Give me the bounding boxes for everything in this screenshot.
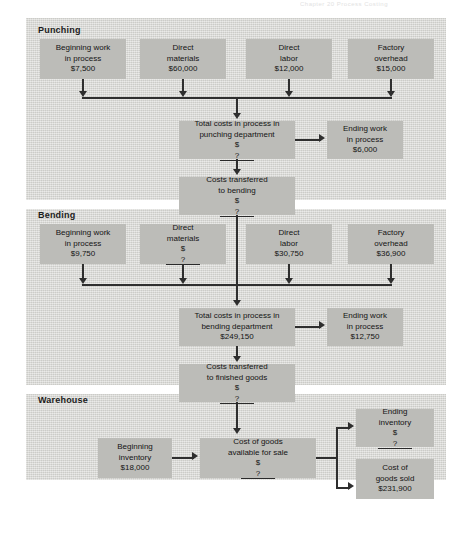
blank-value: ? xyxy=(166,255,200,265)
blank-value: ? xyxy=(220,151,254,161)
section-label-bending: Bending xyxy=(38,210,75,220)
box-amount: $60,000 xyxy=(169,64,198,75)
warehouse-cost-of-goods-sold-box[interactable]: Cost of goods sold $231,900 xyxy=(356,459,434,499)
box-line-2: punching department xyxy=(199,130,274,141)
bending-ending-wip-line xyxy=(295,326,321,328)
box-line-1: Total costs in process in xyxy=(195,119,280,130)
punching-direct-labor-box[interactable]: Direct labor $12,000 xyxy=(246,39,332,79)
punching-transfer-feed-arrow-icon xyxy=(233,169,241,175)
punching-factory-overhead-box[interactable]: Factory overhead $15,000 xyxy=(348,39,434,79)
currency-symbol: $ xyxy=(378,428,412,439)
box-line-1: Direct xyxy=(173,43,194,54)
box-line-1: Factory xyxy=(378,228,405,239)
bending-factory-overhead-box[interactable]: Factory overhead $36,900 xyxy=(348,224,434,264)
box-amount: $? xyxy=(166,244,200,265)
box-line-2: inventory xyxy=(379,418,411,429)
warehouse-beginning-to-available-line xyxy=(172,457,194,459)
currency-symbol: $ xyxy=(166,244,200,255)
bending-direct-labor-box[interactable]: Direct labor $30,750 xyxy=(246,224,332,264)
running-head: Chapter 20 Process Costing xyxy=(300,1,460,8)
box-amount: $249,150 xyxy=(220,332,253,343)
bending-total-costs-box[interactable]: Total costs in process in bending depart… xyxy=(179,308,295,346)
punching-costs-transferred-box[interactable]: Costs transferred to bending $? xyxy=(179,177,295,215)
box-line-1: Direct xyxy=(279,228,300,239)
blank-value: ? xyxy=(220,207,254,217)
punching-direct-materials-box[interactable]: Direct materials $60,000 xyxy=(140,39,226,79)
box-line-2: labor xyxy=(280,239,298,250)
bending-total-feed-arrow-icon xyxy=(233,300,241,306)
box-amount: $? xyxy=(378,428,412,449)
box-line-2: to finished goods xyxy=(207,373,268,384)
bending-direct-materials-box[interactable]: Direct materials $? xyxy=(140,224,226,264)
box-line-2: in process xyxy=(347,135,383,146)
box-amount: $? xyxy=(241,458,275,479)
warehouse-beginning-inventory-box[interactable]: Beginning inventory $18,000 xyxy=(98,438,172,478)
box-line-1: Costs transferred xyxy=(206,175,267,186)
exhibit-page: Chapter 20 Process Costing Punching Bend… xyxy=(0,0,471,534)
punching-beginning-wip-box[interactable]: Beginning work in process $7,500 xyxy=(40,39,126,79)
warehouse-feed-arrow-icon xyxy=(233,428,241,434)
warehouse-beginning-to-available-arrow-icon xyxy=(192,452,198,460)
warehouse-branch-cogs-arrow-icon xyxy=(348,482,354,490)
box-amount: $12,750 xyxy=(351,332,380,343)
currency-symbol: $ xyxy=(220,140,254,151)
box-line-2: inventory xyxy=(119,453,151,464)
bending-costs-transferred-box[interactable]: Costs transferred to finished goods $? xyxy=(179,364,295,402)
box-amount: $6,000 xyxy=(353,145,377,156)
warehouse-feed-line xyxy=(236,402,238,430)
box-line-2: bending department xyxy=(201,322,272,333)
box-amount: $? xyxy=(220,140,254,161)
warehouse-branch-ending-inventory-arrow-icon xyxy=(348,422,354,430)
currency-symbol: $ xyxy=(220,383,254,394)
blank-value: ? xyxy=(378,439,412,449)
warehouse-split-bar xyxy=(336,427,338,489)
punching-total-costs-box[interactable]: Total costs in process in punching depar… xyxy=(179,121,295,159)
box-amount: $12,000 xyxy=(275,64,304,75)
box-line-2: in process xyxy=(65,239,101,250)
box-line-2: overhead xyxy=(374,54,407,65)
box-line-1: Factory xyxy=(378,43,405,54)
box-line-1: Beginning work xyxy=(56,43,111,54)
box-line-2: to bending xyxy=(218,186,255,197)
box-line-1: Ending work xyxy=(343,124,387,135)
currency-symbol: $ xyxy=(220,196,254,207)
box-amount: $9,750 xyxy=(71,249,95,260)
box-line-1: Beginning work xyxy=(56,228,111,239)
box-line-1: Direct xyxy=(279,43,300,54)
warehouse-goods-available-box[interactable]: Cost of goods available for sale $? xyxy=(200,438,316,478)
box-line-1: Beginning xyxy=(117,442,153,453)
punching-total-feed-arrow-icon xyxy=(233,113,241,119)
currency-symbol: $ xyxy=(241,458,275,469)
box-amount: $? xyxy=(220,196,254,217)
warehouse-split-stem xyxy=(316,457,338,459)
box-line-2: available for sale xyxy=(228,448,288,459)
box-line-2: labor xyxy=(280,54,298,65)
box-line-1: Ending xyxy=(383,407,408,418)
box-line-1: Costs transferred xyxy=(206,362,267,373)
box-line-2: overhead xyxy=(374,239,407,250)
box-amount: $? xyxy=(220,383,254,404)
box-line-2: materials xyxy=(167,234,199,245)
bending-ending-wip-arrow-icon xyxy=(319,321,325,329)
box-amount: $18,000 xyxy=(121,463,150,474)
box-line-2: materials xyxy=(167,54,199,65)
warehouse-ending-inventory-box[interactable]: Ending inventory $? xyxy=(356,409,434,447)
box-amount: $231,900 xyxy=(378,484,411,495)
box-line-1: Direct xyxy=(173,223,194,234)
box-amount: $15,000 xyxy=(377,64,406,75)
box-amount: $7,500 xyxy=(71,64,95,75)
section-label-warehouse: Warehouse xyxy=(38,395,88,405)
box-amount: $30,750 xyxy=(275,249,304,260)
bending-beginning-wip-box[interactable]: Beginning work in process $9,750 xyxy=(40,224,126,264)
box-line-2: in process xyxy=(65,54,101,65)
punching-to-bending-transfer-line xyxy=(236,215,238,294)
box-line-1: Total costs in process in xyxy=(195,311,280,322)
box-amount: $36,900 xyxy=(377,249,406,260)
blank-value: ? xyxy=(220,394,254,404)
process-cost-flow-diagram: Punching Bending Warehouse Beginning wor… xyxy=(26,18,446,480)
bending-ending-wip-box[interactable]: Ending work in process $12,750 xyxy=(327,308,403,346)
punching-ending-wip-box[interactable]: Ending work in process $6,000 xyxy=(327,121,403,159)
bending-transfer-feed-arrow-icon xyxy=(233,356,241,362)
punching-ending-wip-arrow-icon xyxy=(319,134,325,142)
box-line-1: Cost of xyxy=(382,463,407,474)
